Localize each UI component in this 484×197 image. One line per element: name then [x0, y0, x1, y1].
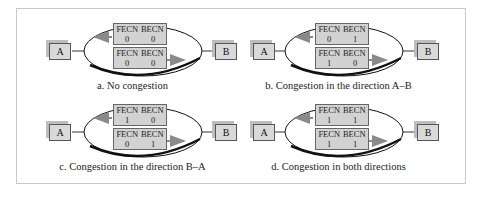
frame-a-to-b: FECNBECN 10: [315, 47, 369, 69]
fecn-value: 1: [327, 115, 331, 125]
becn-label: BECN: [343, 129, 366, 139]
becn-value: 1: [151, 139, 155, 149]
frame-b-to-a: FECNBECN 01: [315, 23, 369, 45]
becn-label: BECN: [141, 48, 164, 58]
fecn-value: 0: [125, 34, 129, 44]
fecn-label: FECN: [318, 48, 340, 58]
node-a: A: [253, 124, 275, 141]
node-a: A: [253, 43, 275, 60]
fecn-label: FECN: [116, 105, 138, 115]
becn-label: BECN: [141, 129, 164, 139]
becn-label: BECN: [343, 105, 366, 115]
fecn-value: 1: [327, 139, 331, 149]
becn-label: BECN: [141, 105, 164, 115]
frame-b-to-a: FECNBECN 10: [113, 104, 167, 126]
panel-d: A B FECNBECN 11 FECNBECN 11 d. Congestio…: [240, 95, 465, 183]
fecn-label: FECN: [318, 24, 340, 34]
fecn-label: FECN: [318, 105, 340, 115]
node-a: A: [49, 43, 71, 60]
node-b: B: [215, 124, 237, 141]
frame-b-to-a: FECNBECN 00: [113, 23, 167, 45]
panel-caption: d. Congestion in both directions: [226, 161, 451, 172]
fecn-value: 0: [327, 34, 331, 44]
panel-caption: b. Congestion in the direction A–B: [226, 80, 451, 91]
frame-a-to-b: FECNBECN 00: [113, 47, 167, 69]
panel-caption: a. No congestion: [20, 80, 245, 91]
fecn-label: FECN: [318, 129, 340, 139]
becn-value: 0: [353, 58, 357, 68]
panel-c: A B FECNBECN 10 FECNBECN 01 c. Congestio…: [20, 95, 245, 183]
becn-value: 0: [151, 58, 155, 68]
panel-caption: c. Congestion in the direction B–A: [20, 161, 245, 172]
fecn-value: 0: [125, 139, 129, 149]
fecn-value: 0: [125, 58, 129, 68]
node-a: A: [49, 124, 71, 141]
panel-a: A B FECNBECN 00 FECNBECN 00 a. No conges…: [20, 10, 245, 98]
becn-label: BECN: [343, 24, 366, 34]
node-b: B: [215, 43, 237, 60]
becn-value: 1: [353, 139, 357, 149]
frame-b-to-a: FECNBECN 11: [315, 104, 369, 126]
node-b: B: [417, 43, 439, 60]
panel-b: A B FECNBECN 01 FECNBECN 10 b. Congestio…: [240, 10, 465, 98]
becn-value: 0: [151, 115, 155, 125]
fecn-label: FECN: [116, 24, 138, 34]
becn-label: BECN: [141, 24, 164, 34]
fecn-value: 1: [327, 58, 331, 68]
becn-label: BECN: [343, 48, 366, 58]
becn-value: 1: [353, 34, 357, 44]
frame-a-to-b: FECNBECN 01: [113, 128, 167, 150]
frame-a-to-b: FECNBECN 11: [315, 128, 369, 150]
fecn-value: 1: [125, 115, 129, 125]
fecn-label: FECN: [116, 129, 138, 139]
fecn-label: FECN: [116, 48, 138, 58]
becn-value: 1: [353, 115, 357, 125]
node-b: B: [417, 124, 439, 141]
becn-value: 0: [151, 34, 155, 44]
